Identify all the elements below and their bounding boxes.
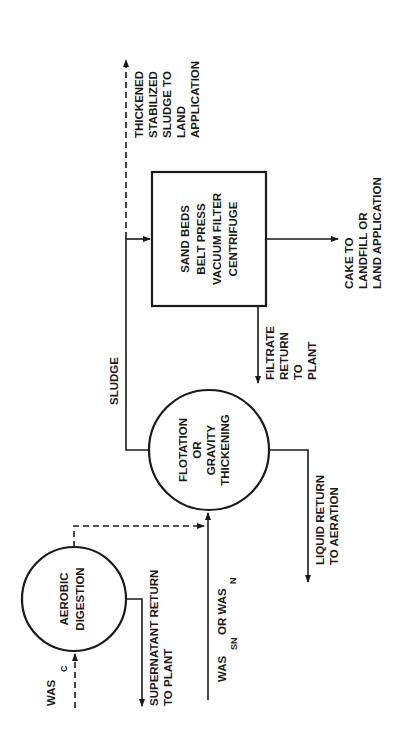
thickening-label-4: THICKENING: [219, 414, 231, 486]
thickening-label-2: OR: [191, 441, 203, 459]
liquid-return-label-2: TO AERATION: [328, 487, 340, 565]
filtrate-label-3: TO: [292, 364, 304, 380]
thickened-label-5: APPLICATION: [189, 61, 201, 138]
filtrate-label-1: FILTRATE: [264, 326, 276, 380]
dewatering-label-4: CENTRIFUGE: [227, 201, 239, 276]
cake-label-1: CAKE TO: [343, 237, 355, 289]
was-sn-subscript: SN: [229, 637, 239, 650]
was-n-label: OR WAS: [216, 588, 228, 635]
was-n-subscript: N: [228, 578, 238, 585]
was-c-subscript: C: [59, 665, 69, 672]
sludge-line: [126, 238, 150, 450]
dewatering-label-3: VACUUM FILTER: [211, 192, 223, 285]
thickening-label-3: GRAVITY: [205, 425, 217, 476]
thickened-label-2: STABILIZED: [147, 71, 159, 138]
thickened-label-4: LAND: [175, 106, 187, 138]
thickened-label-1: THICKENED: [133, 71, 145, 138]
was-sn-label: WAS: [216, 655, 228, 682]
thickened-label-3: SLUDGE TO: [161, 71, 173, 138]
supernatant-arrow: [126, 599, 142, 706]
filtrate-label-4: PLANT: [306, 342, 318, 380]
thickening-label-1: FLOTATION: [177, 418, 189, 482]
aerobic-label-1: AEROBIC: [58, 572, 70, 625]
liquid-return-arrow: [269, 450, 308, 582]
aerobic-label-2: DIGESTION: [74, 567, 86, 630]
aerobic-to-thickening-dashed: [74, 526, 204, 547]
filtrate-label-2: RETURN: [278, 332, 290, 380]
sludge-process-diagram: AEROBIC DIGESTION WAS C SUPERNATANT RETU…: [0, 0, 404, 751]
dewatering-label-2: BELT PRESS: [195, 203, 207, 275]
dewatering-node: [152, 172, 266, 306]
sludge-label: SLUDGE: [108, 357, 120, 405]
cake-label-3: LAND APPLICATION: [371, 177, 383, 289]
supernatant-label-2: TO PLANT: [162, 649, 174, 706]
dewatering-label-1: SAND BEDS: [179, 205, 191, 273]
was-c-label: WAS: [45, 679, 57, 706]
supernatant-label-1: SUPERNATANT RETURN: [148, 570, 160, 706]
liquid-return-label-1: LIQUID RETURN: [314, 475, 326, 565]
cake-label-2: LANDFILL OR: [357, 212, 369, 289]
